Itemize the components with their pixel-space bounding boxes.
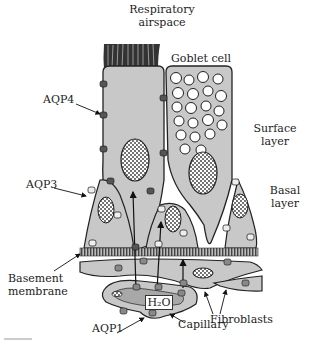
surface-layer-label: Surface layer	[245, 122, 305, 148]
basal-layer-line-1: Basal	[260, 184, 310, 197]
aqp4-pointer	[76, 104, 100, 114]
basement-membrane-label: Basement membrane	[8, 272, 68, 298]
aqp1-label: AQP1	[92, 322, 123, 335]
basement-membrane-pointer	[54, 254, 80, 271]
aqp3-label: AQP3	[26, 178, 57, 191]
water-label: H₂O	[145, 295, 173, 310]
surface-layer-line-1: Surface	[245, 122, 305, 135]
goblet-cell-label: Goblet cell	[171, 52, 231, 65]
title-line-2: airspace	[122, 16, 202, 29]
aqp4-label: AQP4	[43, 93, 74, 106]
aqp3-pointer	[54, 188, 86, 196]
basement-membrane	[80, 248, 258, 256]
title-line-1: Respiratory	[122, 3, 202, 16]
basement-membrane-line-2: membrane	[8, 285, 68, 298]
ciliated-cell-nucleus	[121, 139, 149, 181]
surface-layer-line-2: layer	[245, 135, 305, 148]
basal-layer-line-2: layer	[260, 197, 310, 210]
basal-layer-label: Basal layer	[260, 184, 310, 210]
respiratory-airspace-label: Respiratory airspace	[122, 3, 202, 29]
fibroblast-pointer-1	[205, 292, 213, 314]
basement-membrane-line-1: Basement	[8, 272, 68, 285]
goblet-cell-nucleus	[189, 152, 217, 194]
fibroblast-pointer-2	[220, 290, 226, 314]
capillary-label: Capillary	[178, 318, 229, 331]
